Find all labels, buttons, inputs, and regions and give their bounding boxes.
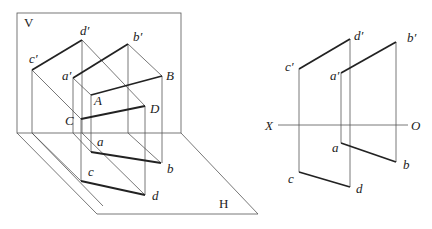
- svg-text:A: A: [93, 93, 102, 108]
- svg-text:c: c: [88, 164, 94, 179]
- svg-text:C: C: [65, 113, 74, 128]
- svg-text:X: X: [264, 118, 274, 133]
- svg-text:b′: b′: [133, 29, 143, 44]
- svg-text:b′: b′: [407, 30, 417, 45]
- label-h: H: [219, 196, 228, 211]
- line-segments: [32, 40, 162, 195]
- svg-text:d: d: [356, 181, 363, 196]
- svg-text:b: b: [167, 161, 174, 176]
- svg-text:d: d: [152, 188, 159, 203]
- svg-text:O: O: [411, 118, 421, 133]
- svg-text:c′: c′: [285, 59, 294, 74]
- svg-text:D: D: [149, 101, 160, 116]
- svg-text:a′: a′: [330, 68, 340, 83]
- svg-text:b: b: [403, 157, 410, 172]
- label-v: V: [24, 15, 34, 30]
- svg-text:a′: a′: [62, 68, 72, 83]
- projection-diagram: V H c′ d′ a′ b′ B A D C a b c d X O c′ d…: [0, 0, 432, 229]
- svg-text:a: a: [97, 134, 104, 149]
- svg-text:a: a: [332, 140, 339, 155]
- svg-text:c′: c′: [29, 51, 38, 66]
- svg-text:c: c: [288, 171, 294, 186]
- right-projection: [278, 39, 408, 187]
- right-labels: X O c′ d′ a′ b′ a b c d: [264, 28, 421, 196]
- svg-text:d′: d′: [354, 28, 364, 43]
- svg-text:B: B: [166, 68, 174, 83]
- svg-text:d′: d′: [80, 23, 90, 38]
